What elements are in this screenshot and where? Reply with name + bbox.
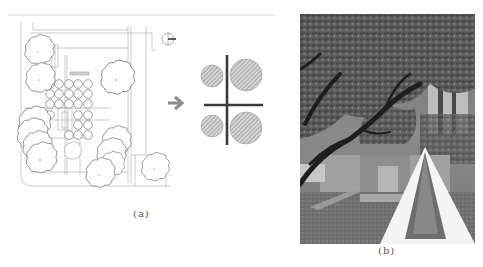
panel-a-site-plan: (a) <box>0 0 290 267</box>
garden-photo <box>300 14 475 244</box>
abstract-diagram <box>201 55 263 145</box>
arrow-right-icon <box>168 97 182 109</box>
tree-canopies <box>17 35 169 188</box>
caption-b: (b) <box>378 245 395 256</box>
north-arrow-icon <box>162 33 176 45</box>
site-plan-drawing <box>0 0 290 267</box>
caption-a: (a) <box>133 208 150 219</box>
planting-grid <box>46 80 93 140</box>
panel-b-photo <box>300 14 475 244</box>
figure: (a) <box>0 0 483 267</box>
